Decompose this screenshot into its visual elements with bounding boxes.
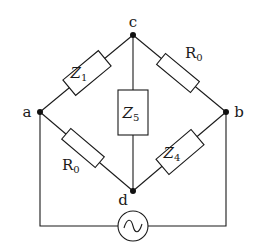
node-c: [130, 32, 136, 38]
r0-cb-label: R0: [185, 44, 203, 63]
node-d-label: d: [118, 191, 128, 209]
node-d: [130, 188, 136, 194]
node-b: [223, 109, 229, 115]
bridge-circuit-diagram: Z1 R0 R0 Z4 Z5 c a b d: [0, 0, 261, 251]
node-a-label: a: [23, 103, 32, 121]
impedance-z1: Z1: [58, 44, 111, 95]
node-c-label: c: [129, 13, 137, 31]
r0-ad-label: R0: [62, 156, 80, 175]
node-b-label: b: [234, 103, 244, 121]
node-a: [37, 109, 43, 115]
ac-source: [118, 211, 148, 241]
